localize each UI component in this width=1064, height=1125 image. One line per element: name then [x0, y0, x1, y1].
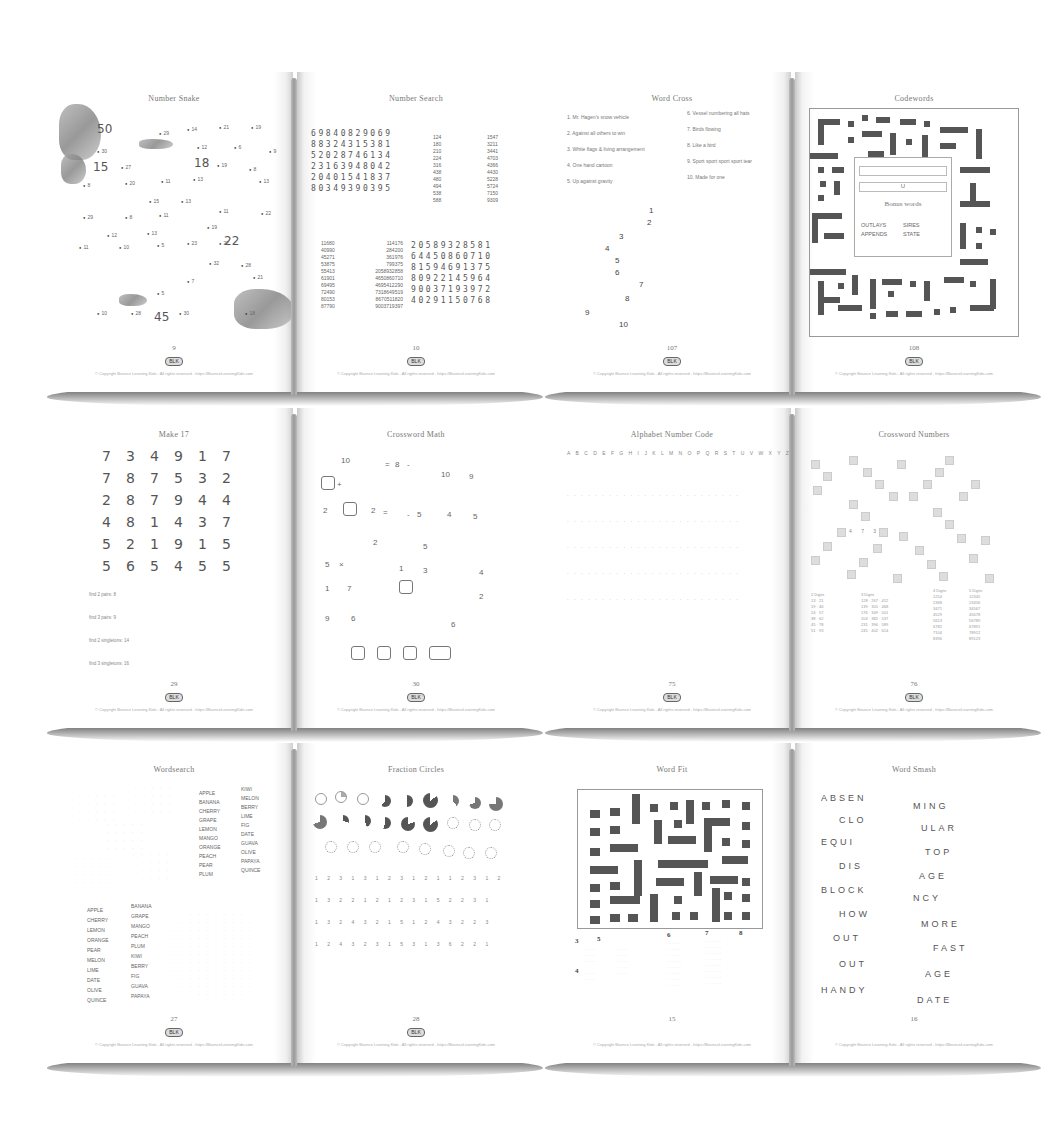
word-column: · · · · · ·· · · · · ·· · · · · ·· · · ·… [667, 941, 681, 989]
answer-line: U [859, 182, 947, 192]
word: BERRY [131, 961, 152, 971]
dot-label: 27 [219, 240, 229, 246]
list-item: 11680 [321, 240, 335, 247]
math-number: 10 [341, 456, 350, 465]
word-length-label: 4 [575, 967, 579, 975]
answer-box[interactable] [343, 502, 357, 516]
page-title: Alphabet Number Code [553, 430, 791, 439]
book-make17-crossword-math: Make 17 734917 787532 287944 481437 5219… [55, 408, 535, 738]
dot-label: 21 [253, 274, 263, 280]
answer-box[interactable] [377, 646, 391, 660]
grid-square [823, 472, 832, 481]
fraction-pie [489, 797, 503, 811]
word-smash-puzzle: ABSEN CLO EQUI DIS BLOCK HOW OUT OUT HAN… [809, 785, 1019, 1008]
grid-square [959, 492, 968, 501]
word: QUINCE [87, 995, 109, 1005]
fraction-puzzle: 1 2 3 1 3 1 2 3 1 2 1 1 2 3 1 2 1 3 2 2 … [311, 785, 521, 1008]
math-operator: + [337, 480, 342, 489]
word: LIME [87, 965, 109, 975]
list-item: 3211 [487, 141, 498, 148]
cell: 8 [126, 514, 150, 530]
grid-row: 64450860710 [411, 251, 493, 262]
column-header: 3 Digits [861, 592, 874, 597]
word-list-b: KIWIMELONBERRYLIMEFIGDATEGUAVAOLIVEPAPAY… [241, 785, 260, 875]
copyright-text: © Copyright Bounce Learning Kids - All r… [309, 707, 523, 712]
list-item: 799375 [357, 261, 403, 268]
word-part: AGE [919, 871, 947, 881]
answer-box[interactable] [321, 476, 335, 490]
answer-box[interactable] [351, 646, 365, 660]
word: APPLE [199, 789, 221, 798]
dot-label: 13 [193, 176, 203, 182]
cell: 6 [126, 558, 150, 574]
page-number-search: Number Search 69840829069 88324315381 52… [297, 72, 535, 392]
fraction-pie [315, 793, 327, 805]
fraction-pie [447, 795, 459, 807]
word: LEMON [87, 925, 109, 935]
math-number: 4 [447, 510, 451, 519]
dot-label: 30 [97, 148, 107, 154]
cell: 7 [222, 514, 246, 530]
list-item: 4703 [487, 155, 498, 162]
grid-square [957, 534, 966, 543]
math-operator: × [339, 560, 344, 569]
word: BANANA [131, 901, 152, 911]
grid-square [935, 468, 944, 477]
grid-square [879, 528, 888, 537]
list-item: 316 [433, 162, 441, 169]
fraction-pie [401, 817, 415, 831]
math-number: 5 [423, 542, 427, 551]
list-item: 114176 [357, 240, 403, 247]
math-number: 4 [479, 568, 483, 577]
answer-box[interactable] [429, 646, 451, 660]
grid-square [889, 492, 898, 501]
list-item: 361976 [357, 254, 403, 261]
list-item: 80153 [321, 296, 335, 303]
grid-row: 20401541837 [311, 172, 393, 183]
word: QUINCE [241, 866, 260, 875]
page-title: Codewords [795, 94, 1033, 103]
word-part: OUT [839, 959, 867, 969]
word-column: · · · · · · ·· · · · · · ·· · · · · · ··… [705, 939, 721, 987]
page-number-snake: Number Snake 50 15 18 22 45 29 14 21 19 … [55, 72, 293, 392]
grid-square [945, 520, 954, 529]
list-item: 9309 [487, 197, 498, 204]
cell: 4 [198, 492, 222, 508]
task-line: find 3 singletons: 16 [89, 661, 279, 666]
page-number: 27 [55, 1015, 293, 1023]
task-line: find 2 singletons: 14 [89, 638, 279, 643]
number-list-3: 1168040990452715387555413619016949572490… [321, 240, 335, 310]
cell: 2 [102, 492, 126, 508]
word: ORANGE [199, 843, 221, 852]
grid-square [981, 536, 990, 545]
word: KIWI [241, 785, 260, 794]
copyright-text: © Copyright Bounce Learning Kids - All r… [807, 1042, 1021, 1047]
bonus-word: SIRES [903, 222, 945, 228]
word-length-label: 6 [667, 931, 671, 939]
copyright-text: © Copyright Bounce Learning Kids - All r… [565, 707, 779, 712]
grid-square [873, 544, 882, 553]
word: DATE [241, 830, 260, 839]
copyright-text: © Copyright Bounce Learning Kids - All r… [309, 371, 523, 376]
publisher-logo: BLK [407, 693, 425, 702]
page-title: Crossword Numbers [795, 430, 1033, 439]
publisher-logo: BLK [407, 1028, 425, 1037]
answer-box[interactable] [403, 646, 417, 660]
dot-label: 10 [97, 310, 107, 316]
number-grid: 734917 787532 287944 481437 521915 56545… [69, 448, 279, 574]
answer-column: 3 Digits128 · 267 · 412139 · 305 · 46817… [861, 592, 888, 634]
word: PEACH [199, 852, 221, 861]
page-title: Number Snake [55, 94, 293, 103]
word-part: DIS [839, 861, 863, 871]
grid-number: 2 [647, 218, 651, 227]
worm-illustration [119, 294, 147, 306]
answer-box[interactable] [399, 580, 413, 594]
code-line: · · · · · · · · · · · · · · · · · · · · … [567, 492, 777, 498]
grid-square [893, 574, 902, 583]
math-operator: - [407, 460, 410, 469]
grid-square [811, 556, 820, 565]
dot-label: 11 [161, 178, 171, 184]
book-word-cross-codewords: Word Cross 1. Mr. Hagen's snow vehicle 2… [553, 72, 1033, 402]
word-part: HANDY [821, 985, 868, 995]
big-number: 15 [93, 160, 108, 174]
